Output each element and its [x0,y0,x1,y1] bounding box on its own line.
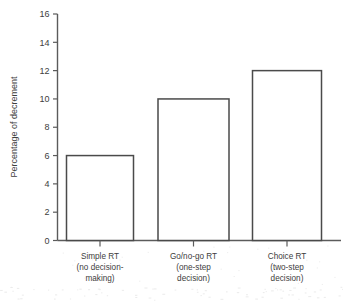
noise-speck [17,288,19,289]
noise-speck [204,269,205,270]
noise-speck [271,290,274,291]
noise-speck [324,297,326,298]
noise-speck [237,292,239,293]
y-tick-label: 12 [39,66,49,76]
noise-speck [55,294,57,295]
noise-speck [0,290,3,291]
noise-speck [149,298,152,299]
noise-speck [154,288,157,289]
noise-speck [306,288,307,289]
y-tick-label: 14 [39,38,49,48]
noise-speck [33,289,34,290]
noise-speck [152,289,153,290]
y-axis-title: Percentage of decrement [9,76,19,178]
noise-speck [11,287,12,288]
noise-speck [209,297,211,298]
noise-speck [12,291,13,292]
noise-speck [298,283,299,284]
noise-speck [197,292,199,293]
noise-speck [84,278,85,279]
noise-speck [280,298,282,299]
y-tick-label: 4 [44,179,49,189]
noise-speck [98,289,100,290]
category-label-line: Choice RT [268,252,307,261]
noise-speck [317,267,318,268]
y-tick-label: 0 [44,236,49,246]
noise-speck [122,257,123,258]
noise-speck [191,289,193,290]
y-tick-label: 10 [39,94,49,104]
noise-speck [92,259,93,260]
y-tick-label: 16 [39,9,49,19]
y-tick-label: 2 [44,207,49,217]
category-label-line: (one-step [176,263,211,272]
noise-speck [203,293,205,294]
noise-speck [201,295,202,296]
bar [158,99,229,241]
noise-speck [120,260,121,261]
noise-speck [197,289,198,290]
noise-speck [4,292,7,293]
noise-speck [144,288,147,289]
noise-speck [320,289,322,290]
noise-speck [227,252,228,253]
category-label-line: Simple RT [81,252,119,261]
noise-speck [234,276,235,277]
noise-speck [62,289,64,290]
noise-speck [54,299,56,300]
noise-speck [289,290,291,291]
noise-speck [341,287,343,288]
noise-speck [87,257,88,258]
noise-speck [275,288,276,289]
noise-speck [265,289,266,290]
noise-speck [300,269,301,270]
noise-speck [238,270,239,271]
noise-speck [270,267,271,268]
noise-speck [246,294,248,295]
noise-speck [162,294,165,295]
y-tick-label: 8 [44,122,49,132]
noise-speck [97,274,98,275]
category-label-line: decision) [271,274,304,283]
bar [253,71,322,241]
noise-speck [293,288,296,289]
noise-speck [22,295,24,296]
category-label-line: Go/no-go RT [170,252,217,261]
noise-speck [290,269,291,270]
noise-speck [292,294,294,295]
noise-speck [72,265,73,266]
noise-speck [229,247,230,248]
noise-speck [84,296,85,297]
noise-speck [226,291,228,292]
category-label-line: (no decision- [77,263,124,272]
noise-speck [48,290,49,291]
noise-speck [79,289,81,290]
x-axis-category-labels: Simple RT(no decision-making)Go/no-go RT… [77,252,307,283]
noise-speck [319,261,320,262]
noise-speck [203,251,204,252]
noise-speck [94,267,95,268]
noise-speck [246,296,249,297]
noise-speck [220,299,223,300]
noise-speck [306,260,307,261]
noise-speck [314,291,316,292]
noise-speck [263,292,265,293]
noise-speck [266,291,267,292]
noise-speck [95,294,97,295]
noise-speck [339,295,341,296]
category-label-line: (two-step [270,263,304,272]
y-tick-label: 6 [44,151,49,161]
noise-speck [322,284,323,285]
noise-speck [18,299,20,300]
noise-speck [77,289,78,290]
noise-speck [135,295,137,296]
noise-speck [277,289,278,290]
noise-speck [255,299,258,300]
noise-speck [221,269,222,270]
category-label: Choice RT(two-stepdecision) [268,252,307,283]
noise-speck [107,295,108,296]
noise-speck [280,289,282,290]
noise-speck [262,297,264,298]
category-label-line: making) [85,274,114,283]
noise-speck [139,281,140,282]
